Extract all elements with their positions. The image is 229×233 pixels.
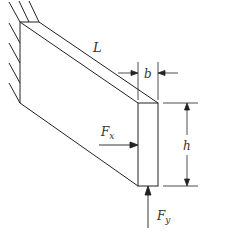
fixed-wall-support [9, 1, 39, 103]
beam-back-top-edge [39, 22, 158, 103]
arrow-head-icon [145, 186, 151, 195]
force-y-arrow [145, 186, 151, 228]
beam [20, 22, 158, 186]
beam-end-face [138, 103, 158, 186]
height-dimension [163, 103, 198, 186]
force-y-label: Fy [156, 209, 171, 225]
hatch-line [9, 2, 20, 22]
force-x-label: Fx [100, 125, 114, 141]
hatch-line [19, 1, 29, 22]
arrow-head-icon [185, 179, 190, 186]
hatch-line [9, 43, 20, 63]
hatch-line [9, 83, 20, 103]
beam-front-top-edge [20, 22, 138, 103]
height-label: h [183, 139, 191, 153]
width-label: b [144, 67, 152, 81]
arrow-head-icon [185, 103, 190, 110]
hatch-line [29, 1, 39, 22]
arrow-head-icon [158, 71, 165, 76]
length-label: L [92, 40, 102, 55]
arrow-head-icon [131, 71, 138, 76]
hatch-line [9, 23, 20, 43]
cantilever-beam-diagram: b L h Fx Fy [0, 0, 229, 233]
arrow-head-icon [130, 142, 138, 148]
force-x-arrow [99, 142, 138, 148]
hatch-line [9, 63, 20, 83]
beam-bottom-edge [20, 103, 138, 186]
